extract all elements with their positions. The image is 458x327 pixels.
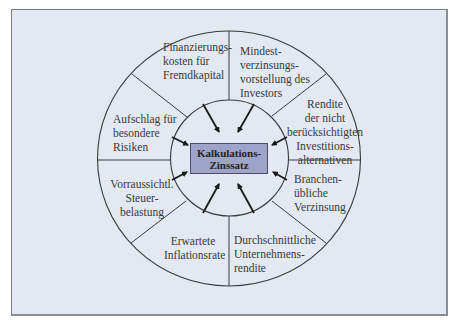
arrow-icon	[273, 172, 287, 180]
segment-rendite-alternativen: Rendite der nicht berücksichtigten Inves…	[284, 97, 366, 167]
segment-steuerbelastung: Vorraussichtl. Steuer- belastung	[106, 177, 178, 219]
segment-unternehmensrendite: Durchschnittliche Unternehmens- rendite	[234, 233, 316, 275]
segment-branchenuebliche-verzinsung: Branchen- übliche Verzinsung	[294, 172, 346, 214]
arrow-icon	[238, 104, 254, 132]
center-box-kalkulationszinssatz: Kalkulations- Zinssatz	[190, 143, 268, 174]
segment-finanzierungskosten: Finanzierungs- kosten für Fremdkapital	[163, 40, 232, 82]
arrow-icon	[238, 184, 254, 213]
arrow-icon	[203, 184, 219, 213]
segment-risikoaufschlag: Aufschlag für besondere Risiken	[113, 112, 177, 154]
segment-mindestverzinsung: Mindest- verzinsungs- vorstellung des In…	[240, 44, 310, 100]
arrow-icon	[203, 104, 219, 132]
segment-inflationsrate: Erwartete Inflationsrate	[164, 234, 222, 262]
center-label: Kalkulations- Zinssatz	[197, 147, 261, 171]
